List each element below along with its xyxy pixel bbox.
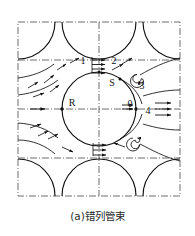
figure-caption-wrapper: (a)错列管束 bbox=[0, 206, 195, 224]
label-point-R: R bbox=[69, 97, 76, 108]
marker-point-S bbox=[119, 78, 122, 81]
label-point-0: 0 bbox=[128, 98, 133, 109]
label-point-4: 4 bbox=[146, 105, 151, 116]
figure-container: 1 2 3 4 0 R S (a)错列管束 bbox=[0, 0, 195, 236]
label-point-2: 2 bbox=[112, 55, 117, 66]
figure-caption: (a)错列管束 bbox=[70, 209, 125, 223]
tube-bundle-diagram: 1 2 3 4 0 R S bbox=[0, 0, 195, 236]
marker-point-R bbox=[60, 107, 63, 110]
label-point-S: S bbox=[109, 77, 115, 88]
label-point-1: 1 bbox=[81, 55, 86, 66]
marker-point-0 bbox=[134, 107, 137, 110]
marker-point-top bbox=[98, 71, 101, 74]
label-point-3: 3 bbox=[140, 80, 145, 91]
canvas-background bbox=[0, 0, 195, 236]
